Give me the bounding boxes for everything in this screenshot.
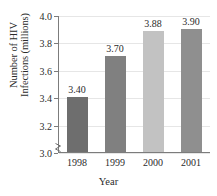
y-tick-mark (54, 71, 58, 72)
x-tick-label: 2001 (181, 157, 201, 168)
bar-value-label: 3.70 (106, 43, 124, 54)
bar: 3.40 (67, 97, 88, 152)
gridline (59, 153, 210, 154)
y-tick-label: 3.6 (40, 65, 53, 76)
y-tick-mark (54, 153, 58, 154)
y-tick-mark (54, 43, 58, 44)
y-tick-mark (54, 16, 58, 17)
bar: 3.90 (181, 29, 202, 152)
bar: 3.88 (143, 31, 164, 152)
x-tick-label: 1998 (67, 157, 87, 168)
y-tick-label: 3.0 (40, 148, 53, 159)
x-tick-label: 1999 (105, 157, 125, 168)
x-tick-label: 2000 (143, 157, 163, 168)
bar-chart-figure: Number of HIV Infections (millions) 4.03… (0, 0, 217, 196)
y-tick-mark (54, 98, 58, 99)
y-axis-line (58, 16, 59, 153)
y-tick-label: 3.8 (40, 38, 53, 49)
y-axis-title-line-1: Number of HIV (8, 22, 19, 88)
y-tick-label: 3.2 (40, 120, 53, 131)
bar-value-label: 3.40 (68, 84, 86, 95)
x-axis-title: Year (0, 176, 217, 187)
y-tick-mark (54, 126, 58, 127)
y-tick-label: 3.4 (40, 93, 53, 104)
y-axis-title-line-2: Infections (millions) (19, 13, 30, 97)
axis-break-icon (54, 142, 63, 153)
bar: 3.70 (105, 56, 126, 152)
bar-value-label: 3.90 (182, 16, 200, 27)
bar-value-label: 3.88 (144, 18, 162, 29)
y-tick-label: 4.0 (40, 11, 53, 22)
y-axis-title: Number of HIV Infections (millions) (4, 0, 34, 110)
plot-area: 4.03.83.63.43.23.0 3.403.703.883.90 1998… (58, 16, 210, 153)
